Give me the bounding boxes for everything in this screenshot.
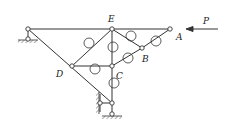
joint-D — [70, 64, 74, 68]
joint-lower-left — [98, 101, 102, 105]
force-arrow-P — [186, 27, 218, 32]
circle-ED — [84, 38, 94, 48]
label-C: C — [116, 71, 123, 81]
joint-top-left-ground — [26, 37, 30, 41]
label-B: B — [141, 54, 149, 64]
joint-B — [140, 46, 144, 50]
joint-lower-right — [110, 101, 114, 105]
label-D: D — [55, 69, 63, 79]
arrow-head-icon — [186, 27, 193, 32]
joint-E — [110, 27, 114, 31]
label-P: P — [202, 16, 210, 26]
joint-C — [110, 64, 114, 68]
truss-diagram: E A B C D P — [0, 0, 232, 132]
joint-bottom — [110, 112, 114, 116]
member-ED — [72, 29, 112, 66]
joint-A — [168, 27, 172, 31]
label-A: A — [175, 32, 183, 42]
member-BA — [142, 29, 170, 48]
joint-top-left — [26, 27, 30, 31]
circle-EB — [126, 31, 136, 41]
label-E: E — [107, 14, 115, 24]
supports — [18, 40, 122, 119]
circle-EC — [108, 42, 118, 52]
